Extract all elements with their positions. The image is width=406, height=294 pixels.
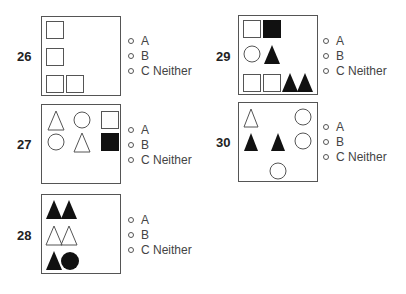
question-number-27: 27 (17, 137, 31, 152)
square-filled-icon (101, 133, 119, 151)
option-label: B (336, 49, 344, 63)
circle-outline-icon (295, 133, 311, 149)
shape-group-29 (239, 16, 319, 96)
options-29: A B C Neither (323, 33, 387, 78)
circle-filled-icon (61, 252, 79, 270)
option-b[interactable]: B (128, 48, 192, 63)
option-label: A (141, 34, 149, 48)
triangle-outline-icon (46, 226, 62, 245)
option-b[interactable]: B (128, 227, 192, 242)
option-c-neither[interactable]: C Neither (128, 63, 192, 78)
radio-icon[interactable] (128, 68, 134, 74)
triangle-filled-icon (271, 133, 285, 151)
figure-box-27 (41, 104, 121, 184)
triangle-outline-icon (244, 109, 258, 127)
radio-icon[interactable] (128, 247, 134, 253)
option-label: C Neither (141, 64, 192, 78)
option-c-neither[interactable]: C Neither (128, 152, 192, 167)
radio-icon[interactable] (323, 38, 329, 44)
triangle-outline-icon (61, 226, 77, 245)
radio-icon[interactable] (128, 38, 134, 44)
option-label: C Neither (336, 150, 387, 164)
question-number-26: 26 (17, 49, 31, 64)
square-outline-icon (67, 76, 84, 93)
radio-icon[interactable] (323, 53, 329, 59)
triangle-filled-icon (264, 45, 280, 64)
option-label: A (141, 213, 149, 227)
circle-outline-icon (48, 134, 64, 150)
radio-icon[interactable] (128, 232, 134, 238)
option-b[interactable]: B (323, 48, 387, 63)
triangle-filled-icon (244, 133, 258, 151)
triangle-outline-icon (48, 111, 64, 130)
square-outline-icon (102, 112, 119, 129)
question-number-30: 30 (216, 135, 230, 150)
radio-icon[interactable] (323, 124, 329, 130)
triangle-filled-icon (46, 200, 62, 219)
figure-box-30 (238, 102, 318, 182)
option-label: B (336, 135, 344, 149)
option-a[interactable]: A (128, 33, 192, 48)
option-c-neither[interactable]: C Neither (323, 63, 387, 78)
radio-icon[interactable] (323, 139, 329, 145)
options-28: A B C Neither (128, 212, 192, 257)
square-filled-icon (263, 20, 281, 38)
square-outline-icon (47, 22, 64, 39)
option-b[interactable]: B (323, 134, 387, 149)
option-label: B (141, 138, 149, 152)
square-outline-icon (264, 75, 281, 92)
square-outline-icon (47, 76, 64, 93)
square-outline-icon (244, 21, 261, 38)
option-c-neither[interactable]: C Neither (323, 149, 387, 164)
option-a[interactable]: A (128, 212, 192, 227)
radio-icon[interactable] (128, 127, 134, 133)
options-27: A B C Neither (128, 122, 192, 167)
option-b[interactable]: B (128, 137, 192, 152)
options-30: A B C Neither (323, 119, 387, 164)
radio-icon[interactable] (323, 154, 329, 160)
option-label: A (141, 123, 149, 137)
option-c-neither[interactable]: C Neither (128, 242, 192, 257)
triangle-filled-icon (61, 200, 77, 219)
radio-icon[interactable] (323, 68, 329, 74)
radio-icon[interactable] (128, 142, 134, 148)
radio-icon[interactable] (128, 157, 134, 163)
triangle-filled-icon (297, 73, 313, 92)
square-outline-icon (244, 75, 261, 92)
shape-group-26 (42, 17, 122, 97)
option-label: C Neither (336, 64, 387, 78)
option-label: B (141, 49, 149, 63)
circle-outline-icon (74, 112, 90, 128)
option-label: C Neither (141, 243, 192, 257)
option-label: B (141, 228, 149, 242)
option-label: C Neither (141, 153, 192, 167)
circle-outline-icon (270, 163, 286, 179)
options-26: A B C Neither (128, 33, 192, 78)
triangle-filled-icon (46, 251, 62, 270)
circle-outline-icon (295, 109, 311, 125)
triangle-outline-icon (74, 133, 90, 152)
question-number-28: 28 (17, 228, 31, 243)
option-a[interactable]: A (128, 122, 192, 137)
option-label: A (336, 120, 344, 134)
shape-group-28 (42, 195, 122, 275)
option-label: A (336, 34, 344, 48)
circle-outline-icon (244, 46, 260, 62)
option-a[interactable]: A (323, 33, 387, 48)
question-number-29: 29 (216, 49, 230, 64)
radio-icon[interactable] (128, 53, 134, 59)
square-outline-icon (47, 49, 64, 66)
figure-box-29 (238, 15, 318, 95)
radio-icon[interactable] (128, 217, 134, 223)
shape-group-27 (42, 105, 122, 185)
figure-box-28 (41, 194, 121, 274)
shape-group-30 (239, 103, 319, 183)
triangle-filled-icon (282, 73, 298, 92)
option-a[interactable]: A (323, 119, 387, 134)
figure-box-26 (41, 16, 121, 96)
